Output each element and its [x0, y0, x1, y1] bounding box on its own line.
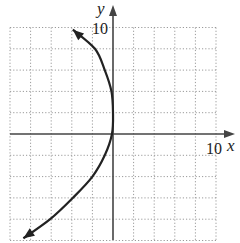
x-axis-label: x: [226, 136, 235, 155]
x-tick-label: 10: [206, 140, 222, 157]
y-axis-label: y: [95, 0, 105, 18]
graph: y 10 10 x: [0, 0, 240, 243]
curve-arrow-top-icon: [73, 30, 84, 41]
y-axis-arrow-icon: [109, 5, 117, 16]
curve-arrow-bottom-icon: [23, 228, 35, 238]
axes: [10, 5, 235, 240]
y-tick-label: 10: [92, 20, 108, 37]
